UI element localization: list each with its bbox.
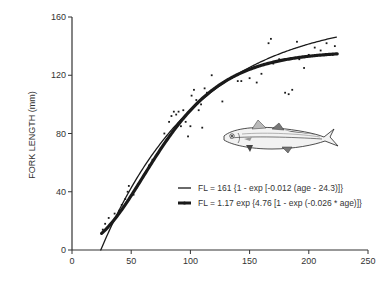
data-point <box>288 93 290 95</box>
data-point <box>256 82 258 84</box>
legend-label-gompertz: FL = 1.17 exp {4.76 [1 - exp (-0.026 * a… <box>198 198 362 208</box>
data-point <box>178 111 180 113</box>
x-tick-label: 50 <box>126 256 136 266</box>
y-axis-label: FORK LENGTH (mm) <box>27 91 37 179</box>
data-point <box>163 133 165 135</box>
data-point <box>187 136 189 138</box>
data-point <box>320 50 322 52</box>
data-point <box>168 121 170 123</box>
data-point <box>284 92 286 94</box>
x-tick-label: 0 <box>69 256 74 266</box>
y-tick-label: 160 <box>51 12 66 22</box>
data-point <box>114 213 116 215</box>
data-point <box>185 121 187 123</box>
data-point <box>191 95 193 97</box>
data-point <box>200 103 202 105</box>
x-tick-label: 250 <box>360 256 375 266</box>
data-point <box>190 125 192 127</box>
data-point <box>128 185 130 187</box>
data-point <box>334 45 336 47</box>
data-point <box>201 127 203 129</box>
data-point <box>211 74 213 76</box>
data-point <box>261 73 263 75</box>
data-point <box>193 89 195 91</box>
x-tick-label: 150 <box>242 256 257 266</box>
data-point <box>270 38 272 40</box>
data-point <box>268 42 270 44</box>
data-point <box>303 67 305 69</box>
x-tick-label: 100 <box>183 256 198 266</box>
data-point <box>314 47 316 49</box>
y-tick-label: 40 <box>56 187 66 197</box>
data-point <box>104 223 106 225</box>
data-point <box>180 125 182 127</box>
data-point <box>195 99 197 101</box>
data-point <box>240 80 242 82</box>
legend-label-von-bertalanffy: FL = 161 {1 - exp [-0.012 (age - 24.3)]} <box>198 183 343 193</box>
y-tick-label: 0 <box>61 245 66 255</box>
data-point <box>221 101 223 103</box>
data-point <box>171 115 173 117</box>
data-point <box>175 114 177 116</box>
data-point <box>198 109 200 111</box>
growth-chart: 04080120160050100150200250 FL = 161 {1 -… <box>0 0 383 297</box>
data-point <box>173 111 175 113</box>
data-point <box>326 42 328 44</box>
data-point <box>108 217 110 219</box>
data-point <box>296 41 298 43</box>
data-point <box>204 87 206 89</box>
data-point <box>249 77 251 79</box>
fish-illustration-icon <box>224 120 338 153</box>
y-tick-label: 80 <box>56 129 66 139</box>
legend-marker-icon <box>183 201 186 204</box>
legend: FL = 161 {1 - exp [-0.012 (age - 24.3)]}… <box>178 183 362 208</box>
data-point <box>237 80 239 82</box>
y-tick-label: 120 <box>51 70 66 80</box>
data-point <box>291 89 293 91</box>
x-tick-label: 200 <box>301 256 316 266</box>
data-point <box>182 109 184 111</box>
